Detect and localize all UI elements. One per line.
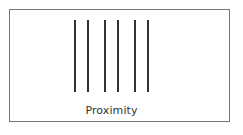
vertical-line-1 — [74, 20, 76, 92]
vertical-line-6 — [147, 20, 149, 92]
vertical-line-4 — [117, 20, 119, 92]
vertical-line-2 — [87, 20, 89, 92]
vertical-line-5 — [134, 20, 136, 92]
vertical-line-3 — [104, 20, 106, 92]
caption-label: Proximity — [0, 104, 233, 117]
